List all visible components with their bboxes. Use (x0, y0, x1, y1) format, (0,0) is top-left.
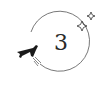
step-number: 3 (48, 28, 74, 58)
sparkle-icon (87, 12, 95, 20)
airplane-icon (17, 45, 38, 58)
step-badge: 3 (0, 0, 101, 92)
plane-trail (33, 57, 41, 66)
